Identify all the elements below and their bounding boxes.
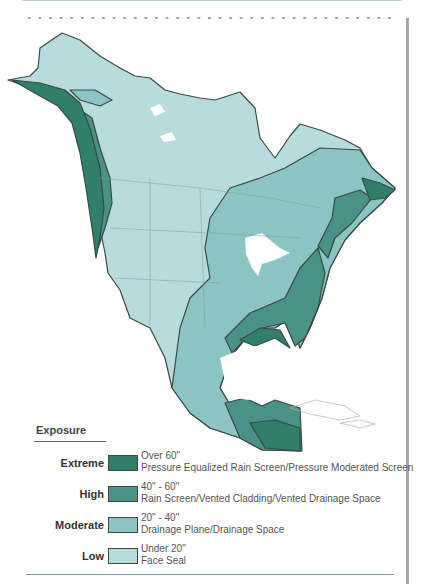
gulf-of-mexico bbox=[220, 346, 305, 400]
legend-description: Drainage Plane/Drainage Space bbox=[141, 524, 284, 535]
legend-range: Over 60" bbox=[141, 450, 180, 461]
legend-range: Under 20" bbox=[141, 543, 186, 554]
exposure-map bbox=[0, 28, 410, 458]
legend-swatch-moderate bbox=[108, 517, 138, 533]
legend-swatch-low bbox=[108, 548, 138, 564]
legend-item-high: High 40" - 60" Rain Screen/Vented Claddi… bbox=[20, 481, 410, 509]
dotted-divider bbox=[24, 16, 394, 20]
legend-title-underline bbox=[34, 441, 106, 442]
legend-item-extreme: Extreme Over 60" Pressure Equalized Rain… bbox=[20, 450, 410, 478]
legend-level: Extreme bbox=[61, 457, 104, 469]
caribbean-islands bbox=[290, 400, 375, 428]
legend-range: 40" - 60" bbox=[141, 481, 179, 492]
legend-level: Moderate bbox=[55, 519, 104, 531]
legend-description: Face Seal bbox=[141, 555, 186, 566]
legend-title: Exposure bbox=[36, 424, 86, 436]
legend-item-moderate: Moderate 20" - 40" Drainage Plane/Draina… bbox=[20, 512, 410, 540]
legend-level: Low bbox=[82, 550, 104, 562]
legend-range: 20" - 40" bbox=[141, 512, 179, 523]
legend-swatch-high bbox=[108, 486, 138, 502]
top-rule bbox=[22, 0, 402, 1]
legend-description: Rain Screen/Vented Cladding/Vented Drain… bbox=[141, 493, 381, 504]
legend-swatch-extreme bbox=[108, 455, 138, 471]
legend-item-low: Low Under 20" Face Seal bbox=[20, 543, 410, 571]
legend-level: High bbox=[80, 488, 104, 500]
bottom-rule bbox=[26, 574, 394, 575]
legend-description: Pressure Equalized Rain Screen/Pressure … bbox=[141, 462, 413, 473]
